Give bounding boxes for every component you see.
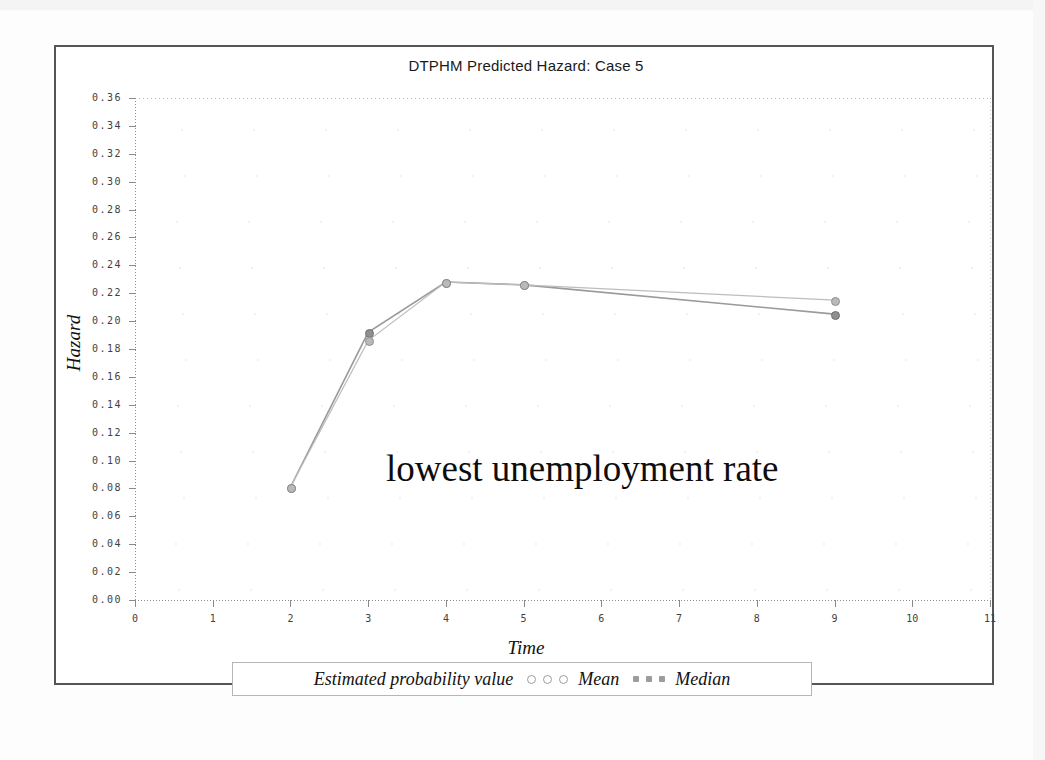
scanned-page: DTPHM Predicted Hazard: Case 5 0.000.020… <box>0 0 1045 760</box>
chart-annotation: lowest unemployment rate <box>386 447 946 490</box>
scan-edge-top <box>0 0 1045 10</box>
y-axis-title: Hazard <box>63 315 85 371</box>
solid-square-icon <box>633 676 665 682</box>
data-point-mean <box>831 311 840 320</box>
series-lines <box>56 47 996 687</box>
legend-title: Estimated probability value <box>314 669 513 690</box>
figure-frame: DTPHM Predicted Hazard: Case 5 0.000.020… <box>54 45 994 685</box>
data-point-median <box>365 337 374 346</box>
data-point-median <box>287 484 296 493</box>
legend-label-median: Median <box>675 669 730 690</box>
legend-entry-median[interactable]: Median <box>633 669 730 690</box>
chart-legend: Estimated probability value Mean Median <box>232 662 812 696</box>
x-axis-title: Time <box>56 637 996 659</box>
data-point-median <box>831 297 840 306</box>
open-circle-icon <box>527 675 568 684</box>
legend-label-mean: Mean <box>578 669 619 690</box>
data-point-median <box>442 279 451 288</box>
legend-entry-mean[interactable]: Mean <box>527 669 619 690</box>
scan-edge-right <box>1033 0 1045 760</box>
